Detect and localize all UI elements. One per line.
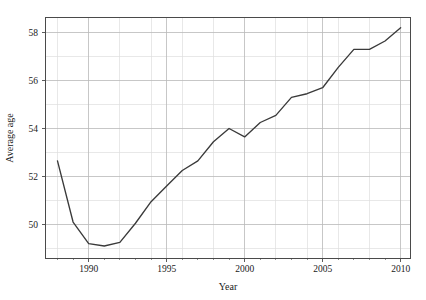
y-tick-label: 56 bbox=[29, 76, 39, 86]
chart-figure: 19901995200020052010 5052545658 Year Ave… bbox=[0, 0, 426, 300]
chart-background bbox=[0, 0, 426, 300]
x-tick-label: 2005 bbox=[313, 264, 332, 274]
line-chart-canvas: 19901995200020052010 5052545658 Year Ave… bbox=[0, 0, 426, 300]
x-tick-label: 2010 bbox=[391, 264, 410, 274]
y-tick-label: 50 bbox=[29, 220, 39, 230]
x-tick-label: 2000 bbox=[235, 264, 254, 274]
x-tick-label: 1990 bbox=[79, 264, 98, 274]
x-tick-label: 1995 bbox=[157, 264, 176, 274]
y-tick-label: 54 bbox=[29, 124, 39, 134]
y-axis-title: Average age bbox=[4, 113, 15, 163]
y-tick-label: 52 bbox=[29, 172, 39, 182]
y-tick-label: 58 bbox=[29, 28, 39, 38]
x-axis-title: Year bbox=[219, 281, 238, 292]
